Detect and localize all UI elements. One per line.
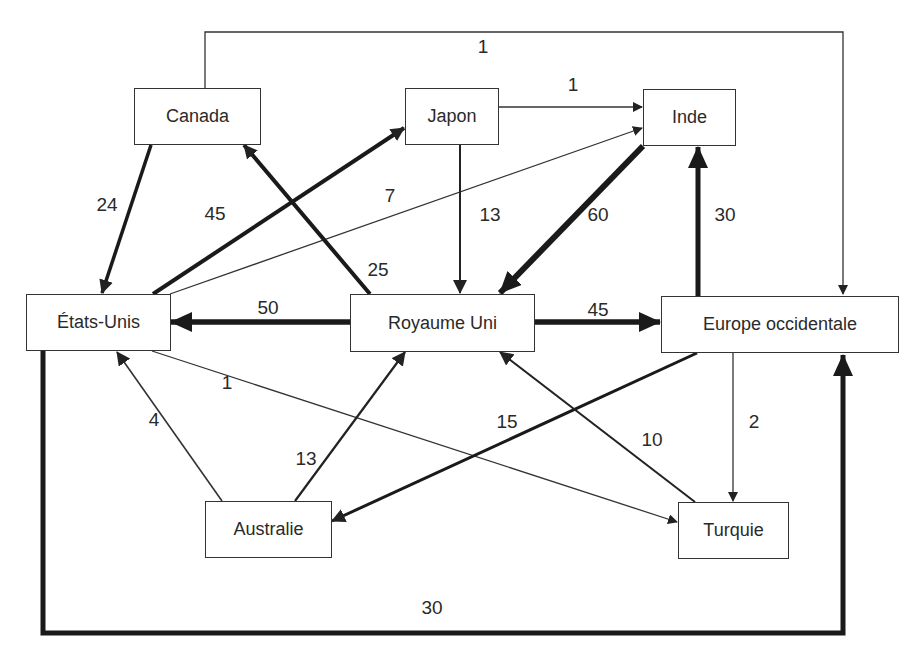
edge-label-japon-inde: 1 — [568, 74, 579, 96]
edge-label-australie-royaumeuni: 13 — [295, 448, 316, 470]
edge-label-europe-turquie: 2 — [749, 411, 760, 433]
node-australie: Australie — [205, 501, 332, 558]
edge-label-japon-royaumeuni: 13 — [479, 204, 500, 226]
node-japon: Japon — [405, 88, 499, 145]
edge-etatsunis-inde — [170, 128, 642, 294]
flow-diagram: Canada Japon Inde États-Unis Royaume Uni… — [0, 0, 920, 661]
node-label: États-Unis — [57, 312, 140, 333]
edge-turquie-royaumeuni — [500, 352, 695, 502]
edge-label-etatsunis-inde: 7 — [385, 185, 396, 207]
edge-label-inde-royaumeuni: 60 — [587, 204, 608, 226]
edge-label-canada-etatsunis: 24 — [96, 194, 117, 216]
node-turquie: Turquie — [678, 502, 789, 559]
node-canada: Canada — [134, 88, 261, 145]
node-label: Turquie — [703, 520, 763, 541]
edge-label-etatsunis-turquie: 1 — [222, 372, 233, 394]
edge-label-europe-australie: 15 — [496, 411, 517, 433]
node-inde: Inde — [643, 89, 736, 146]
node-label: Europe occidentale — [703, 314, 857, 335]
node-royaume-uni: Royaume Uni — [350, 294, 535, 352]
edge-label-royaumeuni-europe: 45 — [587, 299, 608, 321]
edge-canada-europe — [205, 32, 843, 294]
edge-label-turquie-royaumeuni: 10 — [641, 429, 662, 451]
edge-etatsunis-japon — [153, 128, 404, 294]
node-label: Inde — [672, 107, 707, 128]
node-label: Japon — [427, 106, 476, 127]
edge-label-etatsunis-japon: 45 — [204, 203, 225, 225]
edge-australie-royaumeuni — [295, 352, 405, 501]
edge-canada-etatsunis — [102, 145, 151, 293]
edge-label-royaumeuni-etatsunis: 50 — [257, 297, 278, 319]
node-europe-occidentale: Europe occidentale — [661, 296, 899, 353]
edge-label-etatsunis-europe: 30 — [421, 597, 442, 619]
edge-label-australie-etatsunis: 4 — [149, 409, 160, 431]
edge-label-canada-europe: 1 — [478, 36, 489, 58]
edge-australie-etatsunis — [117, 352, 222, 501]
node-label: Australie — [233, 519, 303, 540]
edge-label-royaumeuni-canada: 25 — [367, 259, 388, 281]
edge-label-europe-inde: 30 — [714, 204, 735, 226]
node-label: Canada — [166, 106, 229, 127]
edge-inde-royaumeuni — [500, 146, 643, 293]
node-label: Royaume Uni — [388, 313, 497, 334]
edge-etatsunis-europe — [43, 351, 843, 633]
node-etats-unis: États-Unis — [26, 294, 171, 351]
